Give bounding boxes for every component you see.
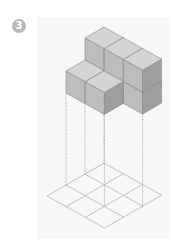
isometric-cube-figure — [0, 0, 182, 242]
